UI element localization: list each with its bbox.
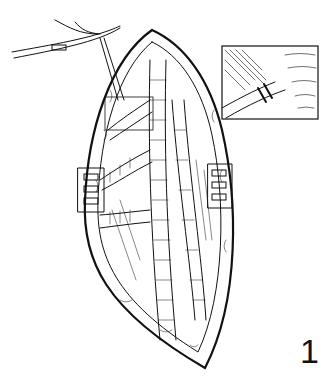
figure-number: 1 [300, 334, 319, 368]
incision-outline [85, 30, 233, 368]
retractor-left [78, 168, 104, 212]
inset-magnified-detail [222, 46, 318, 119]
vessel-hatching [110, 80, 212, 320]
forceps-icon [12, 20, 124, 100]
surgical-illustration [0, 0, 336, 392]
detail-marker-box [105, 97, 153, 130]
